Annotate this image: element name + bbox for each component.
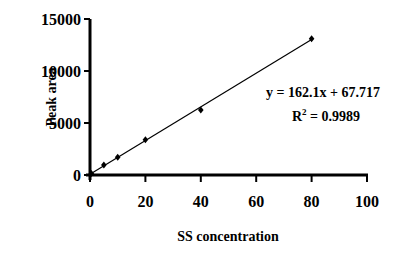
y-axis-title: Peak area [44,67,59,126]
x-tick-label: 60 [248,193,264,210]
x-tick-label: 20 [137,193,153,210]
x-axis-title: SS concentration [177,229,279,244]
x-tick-label: 40 [193,193,209,210]
x-tick-label: 100 [355,193,379,210]
r-squared: R2 = 0.9989 [292,107,360,124]
calibration-chart: 050001000015000020406080100 Peak area SS… [0,0,409,257]
x-tick-label: 0 [86,193,94,210]
regression-equation: y = 162.1x + 67.717 [266,85,380,100]
y-tick-label: 15000 [41,11,81,28]
y-tick-label: 0 [73,167,81,184]
data-point-diamond [115,154,121,161]
x-tick-label: 80 [304,193,320,210]
